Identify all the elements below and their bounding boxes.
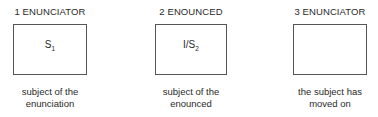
symbol: S xyxy=(45,39,52,50)
heading-enunciator-3: 3 ENUNCIATOR xyxy=(280,6,378,17)
caption-line: subject of the xyxy=(0,86,100,98)
box-label-s1: S1 xyxy=(14,39,86,52)
caption-line: the subject has xyxy=(280,86,378,98)
caption-enounced-2: subject of the enounced xyxy=(141,86,241,110)
caption-enunciator-1: subject of the enunciation xyxy=(0,86,100,110)
box-enunciator-3-empty xyxy=(293,24,367,75)
subscript: 2 xyxy=(195,45,199,52)
box-enounced-2: I/S2 xyxy=(155,24,227,75)
symbol: I/S xyxy=(183,39,195,50)
caption-line: subject of the xyxy=(141,86,241,98)
heading-enunciator-1: 1 ENUNCIATOR xyxy=(0,6,100,17)
box-label-is2: I/S2 xyxy=(156,39,226,52)
subscript: 1 xyxy=(52,45,56,52)
caption-line: enounced xyxy=(141,98,241,110)
caption-line: enunciation xyxy=(0,98,100,110)
heading-enounced-2: 2 ENOUNCED xyxy=(141,6,241,17)
box-enunciator-1: S1 xyxy=(13,24,87,75)
caption-enunciator-3: the subject has moved on xyxy=(280,86,378,110)
caption-line: moved on xyxy=(280,98,378,110)
